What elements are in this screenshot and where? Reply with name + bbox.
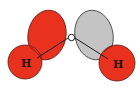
hydrogen-right-label: H bbox=[113, 58, 123, 71]
hydrogen-left-label: H bbox=[21, 57, 31, 70]
oxygen-atom bbox=[68, 34, 74, 40]
molecule-svg: H H bbox=[0, 0, 140, 88]
water-molecule-diagram: H H bbox=[0, 0, 140, 88]
